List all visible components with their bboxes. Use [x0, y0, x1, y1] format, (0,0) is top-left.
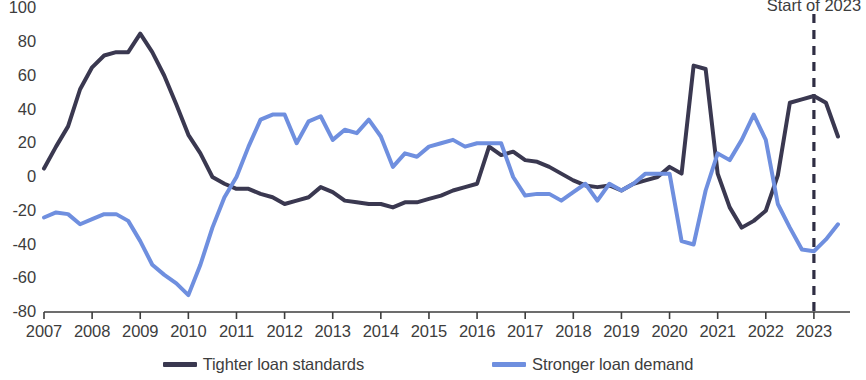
- start-of-2023-label: Start of 2023: [754, 0, 866, 15]
- x-axis: [44, 312, 850, 319]
- x-axis-ticks: [44, 312, 814, 319]
- series-line-tighter-loan-standards: [44, 34, 838, 228]
- legend-item-stronger-loan-demand[interactable]: Stronger loan demand: [492, 355, 693, 374]
- x-axis-label-2023: 2023: [784, 322, 844, 341]
- y-axis-label-20: 20: [0, 133, 36, 152]
- y-axis-label-60: 60: [0, 66, 36, 85]
- y-axis-label-100: 100: [0, 0, 36, 17]
- y-axis-label-0: 0: [0, 167, 36, 186]
- legend-swatch-tighter-loan-standards: [163, 362, 197, 367]
- y-axis-label--80: -80: [0, 302, 36, 321]
- legend-label-stronger-loan-demand: Stronger loan demand: [532, 355, 693, 374]
- legend-item-tighter-loan-standards[interactable]: Tighter loan standards: [163, 355, 364, 374]
- y-axis-label--60: -60: [0, 268, 36, 287]
- y-axis-label-40: 40: [0, 100, 36, 119]
- y-axis-label-80: 80: [0, 32, 36, 51]
- legend-label-tighter-loan-standards: Tighter loan standards: [203, 355, 364, 374]
- legend-swatch-stronger-loan-demand: [492, 362, 526, 367]
- y-axis-label--40: -40: [0, 235, 36, 254]
- series-line-stronger-loan-demand: [44, 115, 838, 296]
- chart-series-lines: [44, 34, 838, 296]
- y-axis-label--20: -20: [0, 201, 36, 220]
- chart-legend: Tighter loan standards Stronger loan dem…: [0, 352, 856, 376]
